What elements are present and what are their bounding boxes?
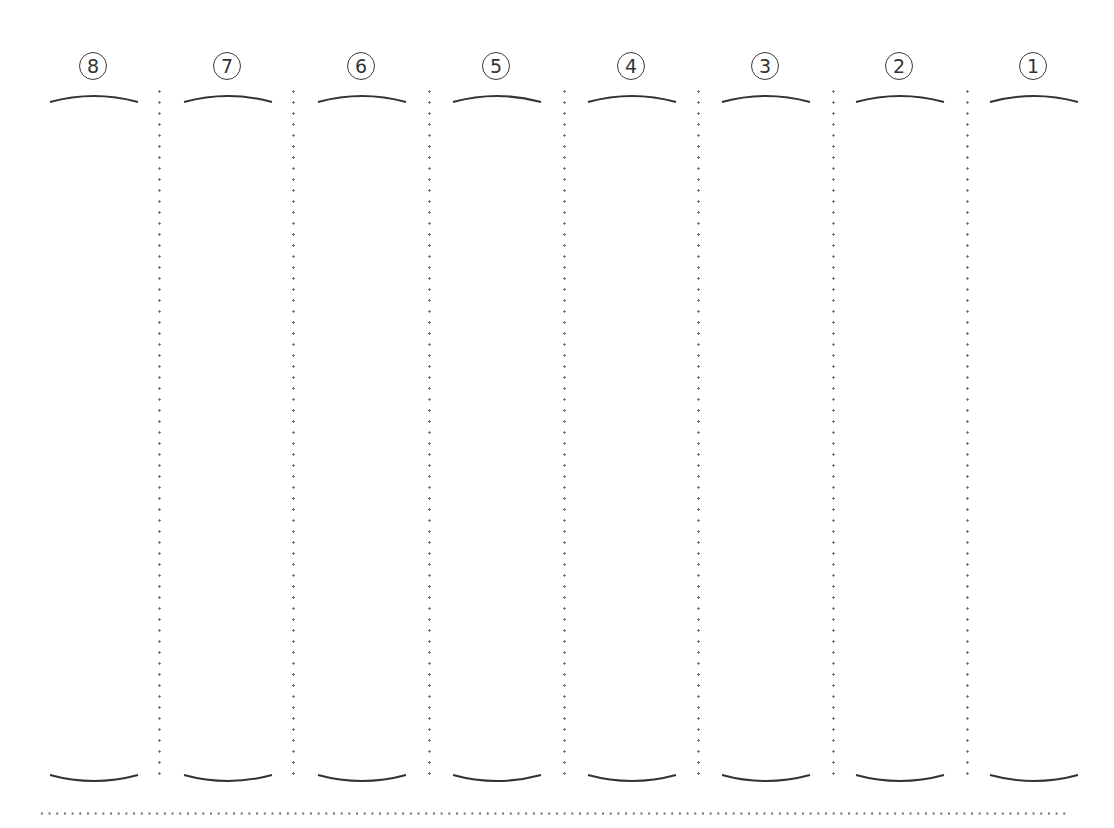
bottom-arc — [850, 772, 950, 786]
circled-number-7: 7 — [213, 52, 241, 80]
strip-column-7: 7 — [178, 0, 278, 828]
bottom-arc — [716, 772, 816, 786]
circled-number-5: 5 — [482, 52, 510, 80]
bottom-arc — [178, 772, 278, 786]
top-arc — [178, 92, 278, 106]
top-arc — [447, 92, 547, 106]
dotted-divider — [158, 86, 161, 782]
circled-number-3: 3 — [751, 52, 779, 80]
circled-number-4: 4 — [617, 52, 645, 80]
strip-column-1: 1 — [984, 0, 1084, 828]
strip-column-5: 5 — [447, 0, 547, 828]
circled-number-8: 8 — [79, 52, 107, 80]
dotted-divider — [428, 86, 431, 782]
strip-column-6: 6 — [312, 0, 412, 828]
horizontal-dotted-cut-line — [38, 812, 1070, 815]
strip-column-3: 3 — [716, 0, 816, 828]
top-arc — [716, 92, 816, 106]
circled-number-2: 2 — [885, 52, 913, 80]
bottom-arc — [44, 772, 144, 786]
dotted-divider — [563, 86, 566, 782]
dotted-divider — [832, 86, 835, 782]
bottom-arc — [582, 772, 682, 786]
top-arc — [984, 92, 1084, 106]
top-arc — [44, 92, 144, 106]
dotted-divider — [292, 86, 295, 782]
top-arc — [850, 92, 950, 106]
bottom-arc — [984, 772, 1084, 786]
circled-number-1: 1 — [1019, 52, 1047, 80]
bottom-arc — [312, 772, 412, 786]
strip-column-4: 4 — [582, 0, 682, 828]
bottom-arc — [447, 772, 547, 786]
strip-column-2: 2 — [850, 0, 950, 828]
top-arc — [312, 92, 412, 106]
circled-number-6: 6 — [347, 52, 375, 80]
dotted-divider — [697, 86, 700, 782]
worksheet: 8 7 6 5 4 3 2 — [0, 0, 1114, 828]
dotted-divider — [966, 86, 969, 782]
top-arc — [582, 92, 682, 106]
strip-column-8: 8 — [44, 0, 144, 828]
